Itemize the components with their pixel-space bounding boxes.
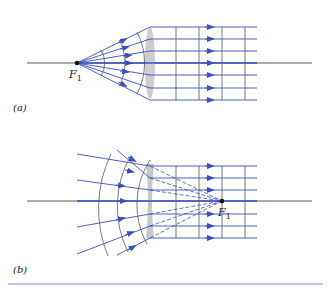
focal-label-subscript-a: 1 <box>77 74 82 83</box>
panel-label-a: (a) <box>13 102 27 113</box>
plane-wavefronts-b <box>176 166 245 238</box>
focal-point-label-b: F1 <box>218 206 231 221</box>
panel-b <box>27 150 312 256</box>
parallel-ray-arrows-b <box>205 166 213 238</box>
focal-label-text-b: F <box>218 206 226 219</box>
panel-label-b: (b) <box>13 264 27 275</box>
lens-diagram <box>0 0 331 288</box>
focal-label-text-a: F <box>69 68 77 81</box>
parallel-ray-arrows-a <box>205 27 213 100</box>
parallel-rays-b <box>150 166 257 238</box>
dashed-extensions-b <box>150 166 222 238</box>
focal-point-label-a: F1 <box>69 68 82 83</box>
parallel-rays-a <box>77 27 257 100</box>
converging-ray-arrows-b <box>116 157 135 250</box>
spherical-wavefronts-b <box>99 154 150 256</box>
focal-point-b <box>220 199 225 204</box>
focal-label-subscript-b: 1 <box>226 212 231 221</box>
panel-a <box>27 27 312 100</box>
focal-point-a <box>75 61 80 66</box>
